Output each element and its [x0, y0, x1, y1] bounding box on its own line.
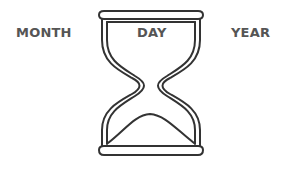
year-label: YEAR [231, 26, 270, 39]
day-label: DAY [137, 26, 167, 39]
month-label: MONTH [16, 26, 72, 39]
